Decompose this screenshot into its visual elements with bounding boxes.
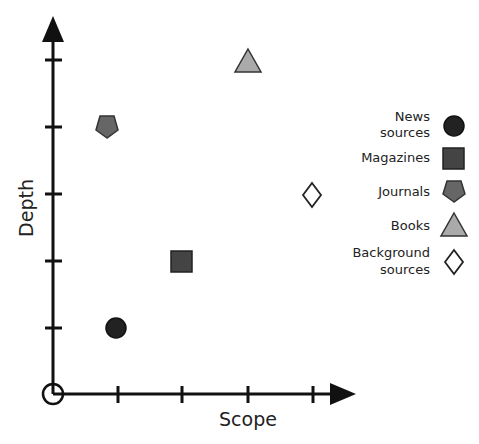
legend-label-journals: Journals (377, 184, 430, 199)
legend-label-books: Books (391, 218, 430, 233)
legend-label-background-2: sources (380, 262, 430, 277)
news-sources-point-icon (106, 318, 126, 338)
legend-circle-icon (444, 116, 464, 136)
magazines-point-icon (171, 251, 192, 272)
legend-label-magazines: Magazines (361, 150, 430, 165)
legend: News sources Magazines Journals Books Ba… (352, 109, 467, 277)
books-point-icon (235, 49, 261, 72)
legend-triangle-icon (441, 213, 467, 236)
x-axis-label: Scope (219, 408, 277, 430)
y-axis-arrow-icon (42, 16, 64, 42)
legend-diamond-icon (445, 250, 463, 274)
depth-scope-diagram: Scope Depth News sources Magazines Journ… (0, 0, 479, 444)
legend-pentagon-icon (443, 181, 465, 202)
legend-label-news-1: News (395, 109, 430, 124)
background-sources-point-icon (303, 183, 321, 207)
legend-square-icon (443, 148, 464, 169)
y-axis-label: Depth (15, 179, 37, 237)
x-axis-arrow-icon (330, 383, 356, 405)
legend-label-news-2: sources (380, 125, 430, 140)
legend-label-background-1: Background (352, 245, 430, 260)
journals-point-icon (96, 116, 118, 138)
